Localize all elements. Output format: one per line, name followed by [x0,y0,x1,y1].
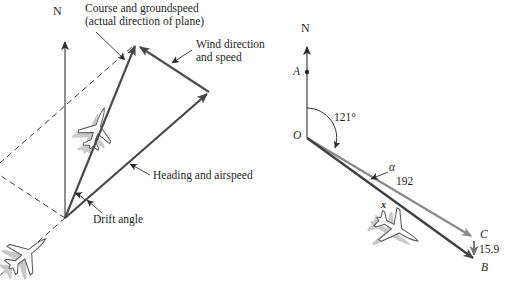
north-label-left: N [53,5,62,18]
right-vector-diagram [305,47,474,261]
airplane-right-glyph [361,202,427,261]
airplane-on-course-glyph [68,103,120,160]
course-groundspeed-vector [65,46,135,218]
left-vector-diagram [0,32,209,288]
wind-speed-value-label: 15.9 [479,243,499,256]
drift-angle-alpha-label: α [389,161,395,174]
point-o-label: O [293,129,301,142]
course-label-leader [96,32,125,60]
bearing-angle-label: 121° [334,111,356,124]
wind-direction-label-line1: Wind direction [196,38,265,51]
airplane-heading-glyph [0,225,57,288]
alpha-label-leader [371,172,388,179]
heading-airspeed-vector [65,94,207,218]
point-b-label: B [481,261,488,274]
plane-mark-label: x [381,199,386,212]
heading-airspeed-label: Heading and airspeed [153,169,253,182]
wind-direction-label-line2: and speed [196,51,242,64]
drift-label-leader [87,200,102,213]
drift-angle-label: Drift angle [93,213,143,226]
airspeed-value-label: 192 [396,175,413,188]
airplane-vector-figure: N Course and groundspeed (actual directi… [0,0,505,288]
drift-angle-arc [75,193,85,200]
point-a-dot [305,70,309,74]
heading-label-leader [130,164,150,175]
point-c-label: C [480,228,488,241]
point-a-label: A [293,65,300,78]
course-groundspeed-label-line2: (actual direction of plane) [85,15,204,28]
course-groundspeed-label-line1: Course and groundspeed [85,2,199,15]
parallelogram-dashed-lines [0,46,133,277]
groundspeed-vector-ob [307,138,473,258]
wind-label-leader [172,50,192,63]
north-label-right: N [301,22,310,35]
